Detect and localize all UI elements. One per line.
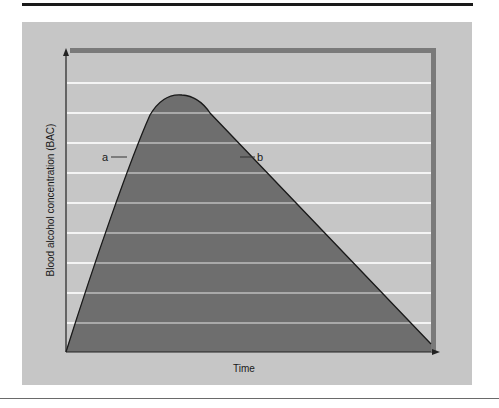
bac-chart: a b Time Blood alcohol concentration (BA…: [0, 0, 499, 408]
frame-top: [70, 48, 436, 53]
y-axis-arrow-icon: [63, 48, 69, 56]
bottom-rule: [0, 398, 499, 399]
bac-area: [66, 95, 431, 352]
x-axis-title: Time: [233, 363, 255, 374]
annotation-a: a: [102, 151, 109, 163]
annotation-b: b: [257, 151, 263, 163]
frame-right: [431, 48, 436, 351]
y-axis-title: Blood alcohol concentration (BAC): [45, 124, 56, 277]
